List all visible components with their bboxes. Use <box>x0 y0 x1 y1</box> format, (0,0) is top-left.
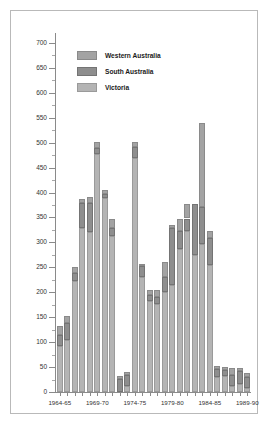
y-axis-minor-tick <box>52 280 55 281</box>
bar-segment <box>64 316 70 322</box>
x-axis-tick-label: 1989-90 <box>227 400 267 406</box>
x-axis-tick <box>97 392 98 396</box>
y-axis-tick-label: 500 <box>11 140 47 147</box>
bar-stack <box>237 33 243 392</box>
y-axis-major-tick <box>49 267 55 268</box>
y-axis-tick-label: 400 <box>11 190 47 197</box>
x-axis-tick <box>180 392 181 396</box>
x-axis-tick <box>67 392 68 396</box>
bar-stack <box>244 33 250 392</box>
x-axis-tick <box>135 392 136 396</box>
bar-segment <box>177 219 183 231</box>
victoria-swatch <box>77 83 97 92</box>
bar-stack <box>199 33 205 392</box>
bar-segment <box>57 346 63 392</box>
bar-stack <box>162 33 168 392</box>
bar-stack <box>192 33 198 392</box>
y-axis-minor-tick <box>52 205 55 206</box>
legend-item: South Australia <box>77 65 161 78</box>
y-axis-tick-label: 250 <box>11 264 47 271</box>
bar-segment <box>139 266 145 277</box>
bar-stack <box>222 33 228 392</box>
bar-segment <box>102 190 108 193</box>
x-axis-tick <box>225 392 226 396</box>
bar-segment <box>162 262 168 277</box>
x-axis-line <box>55 392 251 393</box>
y-axis-major-tick <box>49 93 55 94</box>
bar-segment <box>57 335 63 346</box>
x-axis-tick <box>172 392 173 396</box>
y-axis-tick-label: 350 <box>11 214 47 221</box>
y-axis-major-tick <box>49 342 55 343</box>
bar-segment <box>192 204 198 255</box>
x-axis-tick <box>247 392 248 396</box>
x-axis-tick <box>165 392 166 396</box>
bar-segment <box>222 367 228 369</box>
y-axis-major-tick <box>49 367 55 368</box>
y-axis-minor-tick <box>52 330 55 331</box>
bar-segment <box>237 371 243 384</box>
y-axis-tick-label: 600 <box>11 90 47 97</box>
y-axis-major-tick <box>49 317 55 318</box>
bar-segment <box>177 231 183 249</box>
bar-segment <box>87 232 93 392</box>
y-axis-minor-tick <box>52 255 55 256</box>
bar-segment <box>87 203 93 232</box>
legend-item: Western Australia <box>77 49 161 62</box>
bar-segment <box>184 231 190 392</box>
y-axis-tick-label: 550 <box>11 115 47 122</box>
bar-segment <box>109 228 115 235</box>
bar-segment <box>244 377 250 388</box>
bar-segment <box>132 158 138 392</box>
y-axis-major-tick <box>49 292 55 293</box>
bar-stack <box>229 33 235 392</box>
y-axis-major-tick <box>49 242 55 243</box>
bar-segment <box>169 225 175 228</box>
y-axis-tick-label: 700 <box>11 40 47 47</box>
bar-segment <box>214 366 220 369</box>
bar-segment <box>102 198 108 392</box>
y-axis-minor-tick <box>52 105 55 106</box>
south-australia-swatch <box>77 67 97 76</box>
y-axis-tick-label: 450 <box>11 165 47 172</box>
x-axis-tick <box>187 392 188 396</box>
bar-stack <box>214 33 220 392</box>
bar-segment <box>94 154 100 392</box>
bar-segment <box>124 372 130 375</box>
bar-segment <box>109 236 115 392</box>
bar-segment <box>64 323 70 340</box>
bar-stack <box>207 33 213 392</box>
y-axis-minor-tick <box>52 155 55 156</box>
bar-segment <box>229 368 235 375</box>
bar-segment <box>207 238 213 264</box>
bar-segment <box>79 228 85 392</box>
y-axis-tick-label: 150 <box>11 314 47 321</box>
bar-stack <box>169 33 175 392</box>
y-axis-tick-label: 50 <box>11 364 47 371</box>
legend-item-label: Western Australia <box>105 52 161 59</box>
y-axis-major-tick <box>49 217 55 218</box>
bar-segment <box>79 203 85 229</box>
x-axis-tick-label: 1964-65 <box>40 400 80 406</box>
bar-segment <box>229 386 235 392</box>
bar-segment <box>169 285 175 392</box>
y-axis-tick-label: 200 <box>11 289 47 296</box>
bar-segment <box>147 290 153 295</box>
y-axis-minor-tick <box>52 305 55 306</box>
bar-segment <box>117 379 123 392</box>
bar-segment <box>154 290 160 297</box>
bar-segment <box>162 277 168 291</box>
x-axis-tick-label: 1984-85 <box>190 400 230 406</box>
bar-segment <box>207 231 213 238</box>
bar-segment <box>72 267 78 273</box>
x-axis-tick <box>112 392 113 396</box>
bar-segment <box>64 340 70 392</box>
legend-item-label: Victoria <box>105 84 129 91</box>
x-axis-tick <box>75 392 76 396</box>
bar-segment <box>162 292 168 392</box>
bar-segment <box>184 204 190 219</box>
x-axis-tick <box>210 392 211 396</box>
x-axis-tick-label: 1969-70 <box>77 400 117 406</box>
bar-segment <box>229 375 235 385</box>
bar-segment <box>79 199 85 202</box>
